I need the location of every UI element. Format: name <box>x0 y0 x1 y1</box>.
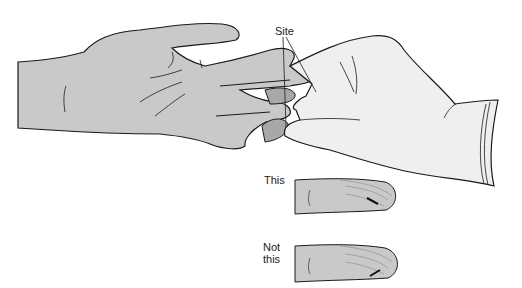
patient-hand <box>18 23 312 148</box>
fingertip-incorrect <box>295 245 397 282</box>
site-label: Site <box>275 25 294 37</box>
gloved-hand <box>284 36 498 186</box>
not-this-label-line2: this <box>263 253 280 265</box>
fingertip-correct <box>295 179 396 214</box>
not-this-label-line1: Not <box>263 241 280 253</box>
illustration <box>0 0 522 288</box>
this-label: This <box>264 174 285 186</box>
